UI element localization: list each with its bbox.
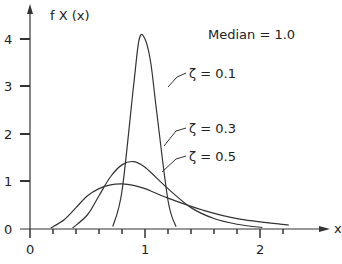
x-tick-label-1: 1 [141, 243, 149, 256]
legend-zeta-0.1: ζ = 0.1 [189, 67, 236, 80]
leader-lines [162, 73, 186, 172]
median-annotation: Median = 1.0 [208, 28, 295, 41]
x-tick-label-2: 2 [256, 243, 264, 256]
y-tick-label-4: 4 [4, 33, 12, 46]
x-axis-arrow-icon [319, 226, 330, 232]
y-axis-arrow-icon [27, 4, 33, 14]
y-ticks [20, 39, 30, 181]
legend-zeta-0.5: ζ = 0.5 [189, 150, 236, 163]
x-ticks [30, 229, 283, 238]
legend-zeta-0.3: ζ = 0.3 [189, 122, 236, 135]
y-tick-label-3: 3 [4, 80, 12, 93]
y-tick-label-0: 0 [4, 223, 12, 236]
y-axis-label: f X (x) [50, 9, 90, 22]
x-axis-label: x [334, 222, 342, 235]
y-tick-label-1: 1 [4, 175, 12, 188]
x-tick-label-0: 0 [26, 243, 34, 256]
y-tick-label-2: 2 [4, 128, 12, 141]
